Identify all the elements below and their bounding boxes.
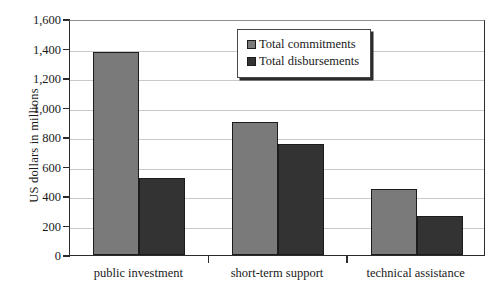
x-axis-category-label: technical assistance <box>336 266 496 281</box>
bar <box>93 52 139 255</box>
legend-swatch-icon <box>247 40 256 49</box>
y-axis-tick-label: 0 <box>9 250 61 263</box>
chart-legend: Total commitmentsTotal disbursements <box>237 29 371 78</box>
y-axis-tick-label: 800 <box>9 132 61 145</box>
bar <box>371 189 417 255</box>
y-axis-tick-label: 1,400 <box>9 44 61 57</box>
bar <box>278 144 324 255</box>
legend-item: Total commitments <box>247 36 359 53</box>
bar <box>417 216 463 255</box>
y-axis-tick-label: 400 <box>9 191 61 204</box>
legend-label: Total disbursements <box>259 55 359 68</box>
bar <box>139 178 185 255</box>
x-axis-tick <box>208 256 209 263</box>
bar <box>232 122 278 255</box>
legend-swatch-icon <box>247 57 256 66</box>
y-axis-tick-label: 200 <box>9 221 61 234</box>
bar-chart: US dollars in millions 02004006008001,00… <box>0 0 503 302</box>
x-axis-tick <box>346 256 347 263</box>
legend-item: Total disbursements <box>247 53 359 70</box>
y-axis-tick-label: 1,200 <box>9 73 61 86</box>
x-axis-category-label: short-term support <box>197 266 357 281</box>
legend-label: Total commitments <box>259 38 356 51</box>
x-axis-category-label: public investment <box>58 266 218 281</box>
y-axis-tick-label: 1,600 <box>9 14 61 27</box>
y-axis-tick-label: 1,000 <box>9 103 61 116</box>
y-axis-tick-label: 600 <box>9 162 61 175</box>
